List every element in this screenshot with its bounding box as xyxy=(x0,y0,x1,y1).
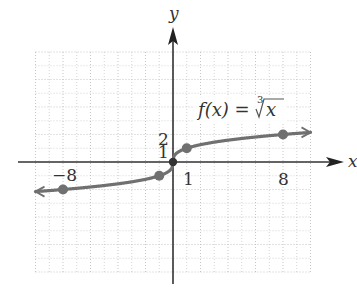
cube-root-graph: x y −8 1 8 1 2 f(x) = 3 x xyxy=(0,0,357,301)
x-tick-neg8: −8 xyxy=(52,165,77,185)
y-tick-2: 2 xyxy=(158,129,169,149)
data-point xyxy=(169,158,177,166)
data-point xyxy=(154,171,164,181)
x-tick-8: 8 xyxy=(278,169,289,189)
function-label: f(x) = 3 x xyxy=(194,94,286,122)
svg-text:f(x) =: f(x) = xyxy=(196,99,250,120)
data-point xyxy=(182,143,192,153)
svg-text:x: x xyxy=(266,99,276,120)
data-point xyxy=(278,130,288,140)
x-tick-1: 1 xyxy=(183,169,194,189)
axes xyxy=(18,27,344,284)
y-axis-label: y xyxy=(168,3,179,23)
data-point xyxy=(58,185,68,195)
x-axis-label: x xyxy=(348,151,357,171)
